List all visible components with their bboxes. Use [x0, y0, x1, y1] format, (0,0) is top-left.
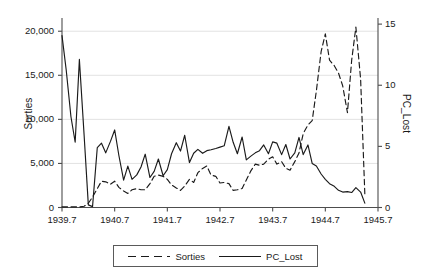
legend-dashed-line-icon [128, 252, 170, 261]
x-tick-label: 1944.7 [299, 214, 351, 225]
legend-label-pc-lost: PC_Lost [266, 251, 302, 262]
chart-plot-area [0, 0, 430, 277]
y-left-tick-label: 15,000 [0, 69, 54, 80]
chart-legend: Sorties PC_Lost [113, 245, 318, 267]
x-tick-label: 1945.7 [352, 214, 404, 225]
y-left-tick-label: 5,000 [0, 157, 54, 168]
y-right-tick-label: 5 [385, 140, 413, 151]
data-series-group [62, 27, 365, 207]
legend-label-sorties: Sorties [175, 251, 205, 262]
y-left-tick-label: 20,000 [0, 25, 54, 36]
y-left-tick-marks [58, 31, 62, 207]
y-right-tick-label: 15 [385, 18, 413, 29]
legend-solid-line-icon [219, 252, 261, 261]
y-right-tick-label: 0 [385, 202, 413, 213]
legend-item-pc-lost[interactable]: PC_Lost [219, 251, 302, 262]
legend-item-sorties[interactable]: Sorties [128, 251, 205, 262]
x-tick-label: 1941.7 [141, 214, 193, 225]
y-right-tick-marks [378, 24, 382, 207]
x-tick-label: 1943.7 [247, 214, 299, 225]
x-tick-label: 1939.7 [36, 214, 88, 225]
gridlines [62, 31, 378, 207]
x-tick-label: 1942.7 [194, 214, 246, 225]
y-right-tick-label: 10 [385, 79, 413, 90]
y-left-tick-label: 10,000 [0, 113, 54, 124]
chart-figure: Sorties PC_Lost 05,00010,00015,00020,000… [0, 0, 430, 277]
y-left-tick-label: 0 [0, 202, 54, 213]
x-tick-marks [62, 208, 378, 212]
x-tick-label: 1940.7 [89, 214, 141, 225]
series-line-sorties [62, 27, 365, 207]
